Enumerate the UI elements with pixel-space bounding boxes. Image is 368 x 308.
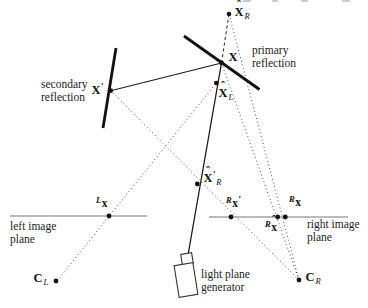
label-main: x — [295, 196, 301, 208]
text-line: left image — [10, 220, 56, 233]
text-line: secondary — [41, 78, 88, 91]
label-sub: L — [229, 92, 234, 102]
text-line: primary — [252, 44, 296, 57]
secondary-mirror-line — [103, 48, 116, 128]
figure-canvas: ˆXR X ˆXL X′ ˆX′R Lx Rx′ Rˆx Rx CL CR se… — [0, 0, 368, 308]
label-main: C — [34, 271, 43, 285]
geometry-diagram — [0, 0, 368, 308]
label-sup: R — [289, 194, 295, 204]
point-c-l — [54, 279, 59, 284]
point-xhat-l — [214, 81, 219, 86]
label-c-r: CR — [305, 271, 321, 285]
hat-accent: ˆ — [206, 165, 210, 178]
hat-accent: ˆ — [221, 80, 225, 93]
label-sub: R — [216, 177, 221, 187]
label-sub: L — [44, 277, 49, 287]
text-line: light plane — [201, 268, 250, 281]
point-c-r — [297, 278, 302, 283]
hat-accent: ˆ — [272, 214, 276, 227]
label-prime: ′ — [238, 195, 241, 205]
point-rx — [283, 215, 288, 220]
label-sup: L — [96, 195, 101, 205]
point-xhat-r — [227, 12, 232, 17]
light-plane-generator-label: light plane generator — [201, 268, 250, 293]
label-xhat-l: ˆXL — [218, 87, 233, 101]
label-sub: R — [316, 276, 321, 286]
text-line: plane — [307, 231, 360, 244]
label-sub: R — [245, 11, 250, 21]
label-sup: R — [265, 219, 271, 229]
reflected-ray-x-to-x-prime — [111, 63, 222, 91]
label-x: X — [228, 51, 239, 65]
label-main: x — [102, 197, 108, 209]
left-image-plane-label: left image plane — [10, 220, 56, 245]
right-image-plane-label: right image plane — [307, 218, 360, 243]
hat-accent: ˆ — [237, 0, 241, 12]
label-xhat-prime-r: ˆX′R — [203, 172, 221, 186]
label-rxhat: Rˆx — [265, 221, 278, 235]
point-x-prime — [108, 88, 113, 93]
label-lx: Lx — [96, 197, 108, 211]
light-plane-ray — [188, 63, 222, 258]
point-rx-prime — [229, 215, 234, 220]
label-c-l: CL — [33, 272, 48, 286]
text-line: generator — [201, 281, 250, 294]
ray-left-camera-to-xhat-l — [57, 83, 216, 281]
label-sup: R — [226, 195, 232, 205]
point-xhat-prime-r — [195, 182, 200, 187]
point-x — [219, 61, 224, 66]
label-main: X — [229, 50, 238, 64]
text-line: reflection — [41, 91, 88, 104]
label-rx: Rx — [289, 196, 302, 210]
label-x-prime: X′ — [91, 84, 104, 98]
secondary-reflection-label: secondary reflection — [41, 78, 88, 103]
light-plane-generator-icon — [174, 253, 198, 298]
label-main: X — [92, 83, 101, 97]
primary-reflection-label: primary reflection — [252, 44, 296, 69]
point-lx — [107, 214, 112, 219]
label-main: C — [306, 270, 315, 284]
text-line: right image — [307, 218, 360, 231]
label-xhat-r: ˆXR — [234, 6, 250, 20]
text-line: plane — [10, 233, 56, 246]
label-prime: ′ — [101, 82, 104, 92]
generator-body — [174, 263, 198, 298]
label-rx-prime: Rx′ — [226, 197, 242, 211]
text-line: reflection — [252, 57, 296, 70]
